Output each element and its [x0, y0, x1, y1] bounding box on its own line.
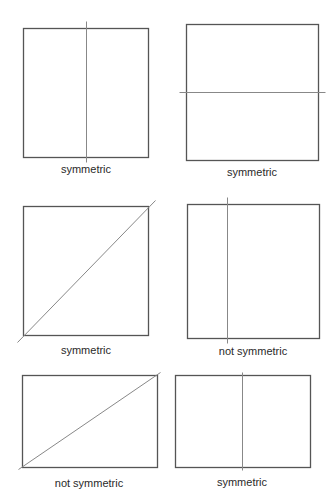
figure-label: symmetric — [61, 163, 111, 175]
figure-1 — [24, 22, 149, 163]
figure-3 — [18, 201, 156, 343]
figure-label: symmetric — [217, 476, 267, 488]
square-outline — [24, 207, 149, 336]
figure-2 — [180, 25, 326, 161]
figure-label: not symmetric — [219, 345, 287, 357]
figure-5 — [19, 373, 161, 470]
figure-label: symmetric — [227, 166, 277, 178]
rectangle-outline — [23, 376, 158, 468]
figure-label: not symmetric — [55, 477, 123, 489]
diagonal-fold-line — [18, 201, 156, 343]
figure-label: symmetric — [61, 344, 111, 356]
diagram-canvas — [0, 0, 336, 501]
diagonal-fold-line — [19, 373, 161, 470]
figure-6 — [176, 373, 311, 471]
figure-4 — [188, 198, 320, 344]
square-outline — [188, 205, 320, 339]
